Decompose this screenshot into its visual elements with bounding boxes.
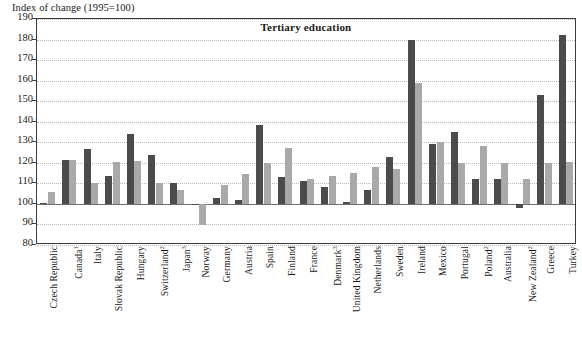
bar-group <box>148 19 163 243</box>
bar-series_2 <box>501 163 508 204</box>
category-label: Japan3 <box>179 246 192 272</box>
category-label: Sweden <box>395 246 405 277</box>
category-label: Norway <box>201 246 211 278</box>
category-label: Spain <box>265 246 275 268</box>
y-tick-label-140: 140 <box>3 115 33 125</box>
bar-series_1 <box>321 187 328 203</box>
bar-series_1 <box>300 181 307 204</box>
bar-group <box>386 19 401 243</box>
bar-series_1 <box>84 149 91 203</box>
y-tick-label-120: 120 <box>3 156 33 166</box>
bar-group <box>516 19 531 243</box>
y-tick-label-100: 100 <box>3 197 33 207</box>
category-label: Poland2 <box>481 246 494 277</box>
bar-group <box>559 19 574 243</box>
bar-series_2 <box>458 163 465 204</box>
bar-series_1 <box>364 190 371 204</box>
bar-series_1 <box>429 144 436 204</box>
y-tick-label-180: 180 <box>3 33 33 43</box>
bar-series_2 <box>91 183 98 204</box>
bar-series_1 <box>40 203 47 204</box>
bar-group <box>472 19 487 243</box>
category-label: Denmark3 <box>330 246 343 286</box>
category-label: Canada1 <box>71 246 84 279</box>
category-label: Slovak Republic <box>114 246 124 311</box>
bar-series_2 <box>221 185 228 203</box>
bar-series_1 <box>235 200 242 204</box>
bar-group <box>343 19 358 243</box>
category-label: United Kingdom <box>352 246 362 312</box>
category-label: Netherlands <box>373 246 383 293</box>
bar-series_1 <box>278 177 285 204</box>
bar-series_1 <box>451 132 458 204</box>
y-axis-ticks: 8090100110120130140150160170180190 <box>0 18 36 244</box>
bar-group <box>62 19 77 243</box>
bar-series_1 <box>256 125 263 204</box>
bar-group <box>364 19 379 243</box>
bar-series_1 <box>213 198 220 204</box>
y-tick-label-80: 80 <box>3 238 33 248</box>
bar-group <box>321 19 336 243</box>
bar-group <box>256 19 271 243</box>
chart-root: Index of change (1995=100) 8090100110120… <box>0 0 582 340</box>
bars-layer <box>37 19 575 243</box>
bar-series_2 <box>393 169 400 204</box>
bar-series_1 <box>386 157 393 204</box>
category-label: Hungary <box>136 246 146 280</box>
bar-series_2 <box>329 176 336 204</box>
y-tick-label-130: 130 <box>3 135 33 145</box>
bar-group <box>300 19 315 243</box>
bar-series_2 <box>156 183 163 204</box>
category-label: Switzerland2 <box>157 246 170 296</box>
bar-series_2 <box>350 173 357 204</box>
bar-group <box>537 19 552 243</box>
category-label: Italy <box>93 246 103 264</box>
y-tick-mark-80 <box>32 244 36 245</box>
bar-series_2 <box>48 192 55 204</box>
bar-series_1 <box>472 179 479 204</box>
bar-series_1 <box>192 204 199 205</box>
bar-series_2 <box>437 142 444 204</box>
bar-series_1 <box>170 183 177 204</box>
bar-group <box>170 19 185 243</box>
bar-series_1 <box>537 95 544 204</box>
bar-series_2 <box>307 179 314 204</box>
y-tick-label-90: 90 <box>3 217 33 227</box>
bar-series_1 <box>408 40 415 204</box>
bar-series_2 <box>177 190 184 204</box>
category-label: Germany <box>222 246 232 282</box>
bar-series_2 <box>199 204 206 226</box>
bar-group <box>451 19 466 243</box>
bar-series_1 <box>559 35 566 203</box>
bar-series_1 <box>516 204 523 208</box>
plot-area: Tertiary education <box>36 18 576 244</box>
bar-group <box>192 19 207 243</box>
bar-series_1 <box>105 176 112 204</box>
y-tick-label-170: 170 <box>3 53 33 63</box>
bar-group <box>278 19 293 243</box>
bar-series_1 <box>494 179 501 204</box>
bar-group <box>40 19 55 243</box>
bar-series_2 <box>480 146 487 204</box>
category-label: Turkey <box>568 246 578 274</box>
bar-group <box>408 19 423 243</box>
y-tick-label-160: 160 <box>3 74 33 84</box>
bar-series_2 <box>545 163 552 204</box>
bar-series_1 <box>148 155 155 204</box>
bar-series_2 <box>523 179 530 204</box>
bar-group <box>429 19 444 243</box>
bar-group <box>127 19 142 243</box>
category-label: Ireland <box>417 246 427 274</box>
category-label: Mexico <box>438 246 448 276</box>
category-label: Austria <box>244 246 254 275</box>
bar-series_2 <box>113 162 120 204</box>
y-tick-label-150: 150 <box>3 94 33 104</box>
bar-series_2 <box>264 163 271 204</box>
bar-series_2 <box>566 162 573 204</box>
bar-series_2 <box>372 167 379 204</box>
category-labels: Czech RepublicCanada1ItalySlovak Republi… <box>36 246 576 338</box>
bar-group <box>213 19 228 243</box>
category-label: New Zealand2 <box>525 246 538 302</box>
bar-group <box>105 19 120 243</box>
bar-series_2 <box>415 83 422 204</box>
